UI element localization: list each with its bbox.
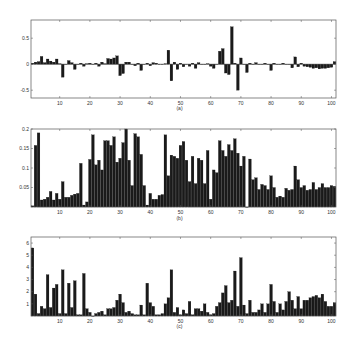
bar <box>221 150 224 207</box>
bar <box>76 193 79 207</box>
bar <box>34 294 37 316</box>
bar <box>128 160 131 207</box>
bar <box>294 166 297 207</box>
bar <box>276 197 279 207</box>
bar <box>140 154 143 207</box>
bar <box>279 196 282 207</box>
bar <box>167 176 170 207</box>
y-tick-label: 6 <box>26 240 29 246</box>
axes-frame <box>31 20 336 98</box>
bar <box>212 170 215 207</box>
y-tick-label: -0.5 <box>20 87 29 93</box>
x-tick-label: 100 <box>327 100 336 106</box>
bar <box>119 64 122 75</box>
bar <box>125 62 128 64</box>
bar <box>206 312 209 316</box>
bar <box>43 309 46 316</box>
bar <box>233 271 236 316</box>
bar <box>297 64 300 67</box>
x-tick-label: 10 <box>57 209 63 215</box>
bar <box>230 27 233 64</box>
panel-caption: (a) <box>176 105 182 111</box>
bar <box>321 294 324 316</box>
bar <box>273 301 276 316</box>
bar <box>73 281 76 316</box>
bar <box>273 188 276 208</box>
bar <box>31 248 34 316</box>
bar <box>285 188 288 207</box>
y-tick-label: 0.1 <box>22 165 29 171</box>
bar <box>258 310 261 316</box>
bar <box>215 173 218 207</box>
bar <box>188 64 191 66</box>
bar <box>152 199 155 207</box>
bar <box>288 190 291 207</box>
bar <box>70 307 73 316</box>
bar <box>122 143 125 207</box>
bar <box>324 301 327 316</box>
bar <box>279 304 282 316</box>
bar <box>34 145 37 207</box>
bar <box>128 62 131 64</box>
bar <box>113 137 116 207</box>
bar <box>252 180 255 207</box>
bar <box>46 197 49 207</box>
bar <box>218 51 221 64</box>
bar <box>167 50 170 64</box>
bar <box>291 300 294 316</box>
bar <box>315 295 318 316</box>
bar <box>95 314 98 316</box>
bar <box>61 270 64 316</box>
bar <box>122 64 125 73</box>
x-tick-label: 70 <box>238 318 244 324</box>
bar <box>113 58 116 64</box>
bar <box>270 64 273 70</box>
bar <box>67 197 70 207</box>
bar <box>46 59 49 64</box>
bar <box>276 312 279 316</box>
x-tick-label: 30 <box>117 318 123 324</box>
bar <box>119 294 122 316</box>
bar <box>303 300 306 316</box>
x-tick-label: 10 <box>57 318 63 324</box>
bar <box>110 309 113 316</box>
bar <box>37 314 40 316</box>
bar <box>237 306 240 316</box>
bar <box>321 64 324 68</box>
bar <box>170 64 173 81</box>
bar <box>194 184 197 207</box>
bar <box>110 59 113 64</box>
x-tick-label: 30 <box>117 209 123 215</box>
bar <box>152 306 155 316</box>
bar <box>309 189 312 207</box>
bar <box>212 314 215 316</box>
bar <box>173 312 176 316</box>
bar <box>200 311 203 316</box>
bar <box>122 303 125 316</box>
bar <box>315 64 318 68</box>
x-tick-label: 100 <box>327 318 336 324</box>
x-tick-label: 90 <box>298 100 304 106</box>
bar <box>194 64 197 68</box>
x-tick-label: 20 <box>87 209 93 215</box>
bar <box>243 305 246 316</box>
x-tick-label: 70 <box>238 209 244 215</box>
bar <box>131 314 134 316</box>
bar <box>146 283 149 316</box>
bar <box>188 182 191 207</box>
bar <box>224 286 227 316</box>
bar <box>143 186 146 207</box>
x-tick-label: 70 <box>238 100 244 106</box>
bar <box>194 309 197 316</box>
bar <box>318 298 321 316</box>
bar <box>261 304 264 316</box>
bar <box>270 284 273 316</box>
bar <box>149 193 152 207</box>
bar <box>240 166 243 207</box>
bar <box>330 186 333 207</box>
bar <box>318 188 321 208</box>
x-tick-label: 20 <box>87 318 93 324</box>
bar <box>140 305 143 316</box>
bar <box>224 156 227 207</box>
bar <box>155 199 158 207</box>
